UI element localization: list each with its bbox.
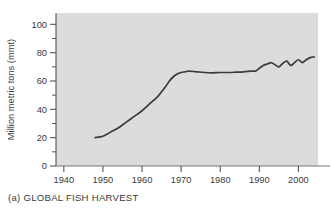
figure-caption: (a)GLOBAL FISH HARVEST <box>8 192 139 203</box>
caption-letter: (a) <box>8 192 20 203</box>
x-tick-label: 1960 <box>132 175 153 185</box>
x-tick-label: 2000 <box>288 175 309 185</box>
caption-text: GLOBAL FISH HARVEST <box>23 192 138 203</box>
x-tick-label: 1990 <box>249 175 270 185</box>
x-tick-label: 1970 <box>171 175 192 185</box>
x-tick-label: 1940 <box>53 175 74 185</box>
y-tick-label: 40 <box>37 105 47 115</box>
y-axis-title: Million metric tons (mmt) <box>6 39 16 140</box>
plot-background <box>56 13 318 166</box>
y-tick-label: 0 <box>42 161 47 171</box>
line-chart: 020406080100 194019501960197019801990200… <box>0 0 332 217</box>
y-tick-label: 60 <box>37 76 47 86</box>
y-axis-tick-labels: 020406080100 <box>31 20 47 172</box>
x-axis-tick-labels: 1940195019601970198019902000 <box>53 175 308 185</box>
x-tick-label: 1950 <box>93 175 114 185</box>
y-tick-label: 20 <box>37 133 47 143</box>
x-tick-label: 1980 <box>210 175 231 185</box>
figure-global-fish-harvest: 020406080100 194019501960197019801990200… <box>0 0 332 217</box>
y-tick-label: 100 <box>31 20 47 30</box>
x-axis-ticks <box>64 166 299 172</box>
y-tick-label: 80 <box>37 48 47 58</box>
y-axis-minor-ticks <box>52 39 56 152</box>
